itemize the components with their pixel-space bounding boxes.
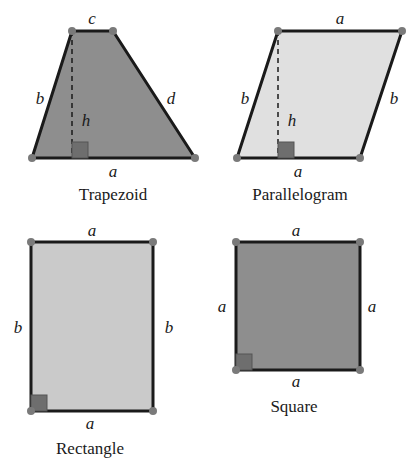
vertex-dot: [398, 27, 406, 35]
vertex-dot: [356, 154, 364, 162]
square-shape: [236, 242, 360, 370]
rectangle-figure: a b b a Rectangle: [14, 221, 174, 458]
square-label-left: a: [218, 297, 227, 316]
parallelogram-figure: a b b h a Parallelogram: [233, 9, 406, 204]
parallelogram-label-height: h: [288, 111, 297, 130]
trapezoid-label-left: b: [36, 89, 45, 108]
vertex-dot: [274, 27, 282, 35]
vertex-dot: [191, 154, 199, 162]
rectangle-label-top: a: [88, 221, 97, 240]
trapezoid-figure: c b d h a Trapezoid: [28, 9, 199, 204]
square-figure: a a a a Square: [218, 221, 377, 416]
vertex-dot: [356, 366, 364, 374]
square-title: Square: [270, 397, 317, 416]
parallelogram-label-left: b: [241, 89, 250, 108]
trapezoid-label-height: h: [82, 111, 91, 130]
right-angle-marker: [278, 142, 294, 158]
vertex-dot: [149, 238, 157, 246]
vertex-dot: [109, 27, 117, 35]
parallelogram-shape: [237, 31, 402, 158]
square-label-top: a: [292, 221, 301, 240]
vertex-dot: [233, 154, 241, 162]
vertex-dot: [28, 154, 36, 162]
rectangle-label-bottom: a: [86, 414, 95, 433]
vertex-dot: [68, 27, 76, 35]
rectangle-shape: [31, 242, 153, 411]
trapezoid-label-bottom: a: [109, 162, 118, 181]
vertex-dot: [149, 407, 157, 415]
vertex-dot: [232, 366, 240, 374]
square-label-bottom: a: [292, 372, 301, 391]
parallelogram-label-top: a: [336, 9, 345, 28]
vertex-dot: [232, 238, 240, 246]
vertex-dot: [27, 238, 35, 246]
rectangle-label-left: b: [14, 318, 23, 337]
parallelogram-label-right: b: [390, 89, 399, 108]
rectangle-title: Rectangle: [56, 439, 124, 458]
vertex-dot: [356, 238, 364, 246]
rectangle-label-right: b: [165, 318, 174, 337]
trapezoid-label-top: c: [88, 9, 96, 28]
right-angle-marker: [72, 142, 88, 158]
parallelogram-label-bottom: a: [294, 162, 303, 181]
quadrilaterals-diagram: c b d h a Trapezoid a b b h a Parallelog…: [0, 0, 414, 474]
trapezoid-title: Trapezoid: [79, 185, 148, 204]
trapezoid-label-right: d: [167, 89, 176, 108]
square-label-right: a: [368, 297, 377, 316]
vertex-dot: [27, 407, 35, 415]
parallelogram-title: Parallelogram: [252, 185, 347, 204]
